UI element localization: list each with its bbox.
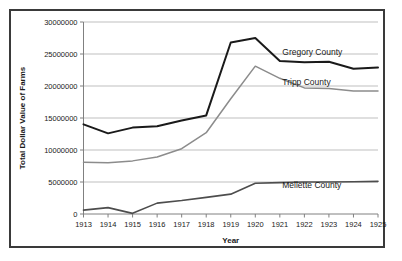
y-tick-label: 0 <box>73 210 77 219</box>
chart-figure: 0500000010000000150000002000000025000000… <box>0 0 402 261</box>
x-tick-label: 1923 <box>321 220 338 229</box>
x-tick-label: 1917 <box>173 220 190 229</box>
y-tick-label: 5000000 <box>48 178 77 187</box>
x-tick-label: 1924 <box>345 220 362 229</box>
x-tick-label: 1922 <box>296 220 313 229</box>
series-labels: Gregory CountyTripp CountyMellette Count… <box>282 47 343 191</box>
x-tick-label: 1915 <box>124 220 141 229</box>
y-tick-label: 25000000 <box>44 50 77 59</box>
x-axis-ticks: 1913191419151916191719181919192019211922… <box>75 214 386 229</box>
series-line-tripp-county <box>84 66 379 163</box>
x-tick-label: 1918 <box>198 220 215 229</box>
x-tick-label: 1919 <box>222 220 239 229</box>
x-axis-title: Year <box>222 236 239 245</box>
series-label-mellette-county: Mellette County <box>282 180 342 190</box>
x-tick-label: 1913 <box>75 220 92 229</box>
series-label-gregory-county: Gregory County <box>282 47 343 57</box>
series-label-tripp-county: Tripp County <box>282 77 331 87</box>
y-axis-title: Total Dollar Value of Farms <box>18 66 27 169</box>
y-axis-ticks: 0500000010000000150000002000000025000000… <box>44 18 83 219</box>
y-tick-label: 30000000 <box>44 18 77 27</box>
x-tick-label: 1925 <box>370 220 387 229</box>
y-tick-label: 10000000 <box>44 146 77 155</box>
y-tick-label: 15000000 <box>44 114 77 123</box>
x-tick-label: 1921 <box>271 220 288 229</box>
x-tick-label: 1914 <box>100 220 117 229</box>
line-chart: 0500000010000000150000002000000025000000… <box>0 0 402 261</box>
x-tick-label: 1920 <box>247 220 264 229</box>
y-tick-label: 20000000 <box>44 82 77 91</box>
x-tick-label: 1916 <box>149 220 166 229</box>
